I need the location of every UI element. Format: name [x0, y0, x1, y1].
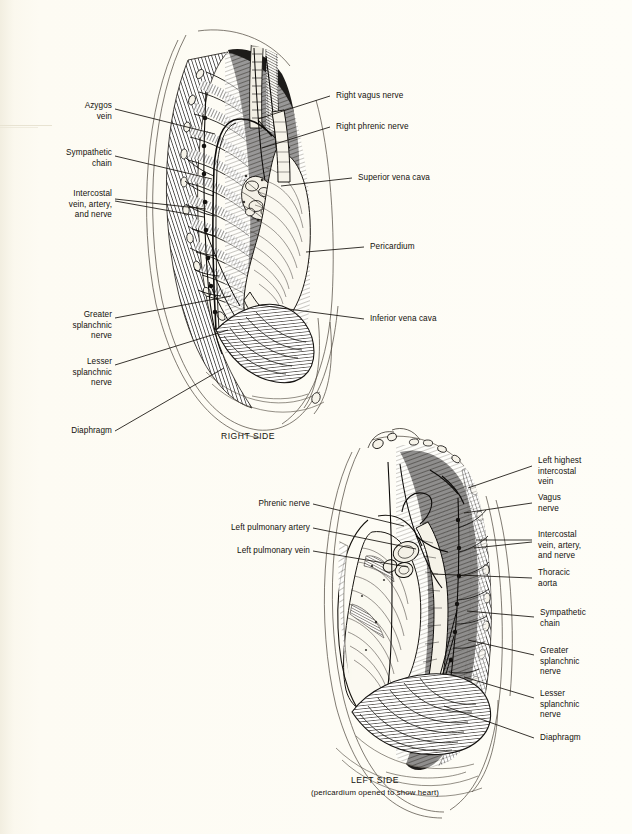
anatomical-illustration	[0, 0, 632, 834]
label-diaphragm-2: Diaphragm	[540, 733, 581, 744]
label-vagus-nerve: Vagus nerve	[538, 493, 561, 514]
caption-left-side: LEFT SIDE	[315, 775, 435, 786]
label-left-highest-intercostal-vein: Left highest intercostal vein	[538, 456, 581, 488]
label-inferior-vena-cava: Inferior vena cava	[370, 314, 437, 325]
label-diaphragm: Diaphragm	[52, 426, 112, 437]
label-phrenic-nerve: Phrenic nerve	[231, 499, 310, 510]
label-left-pulmonary-artery: Left pulmonary artery	[195, 523, 310, 534]
label-pericardium: Pericardium	[370, 242, 415, 253]
label-intercostal-vein-artery-nerve-2: Intercostal vein, artery, and nerve	[538, 530, 581, 562]
label-lesser-splanchnic-nerve-2: Lesser splanchnic nerve	[540, 689, 580, 721]
figure-right-side	[147, 30, 338, 438]
label-superior-vena-cava: Superior vena cava	[358, 173, 430, 184]
label-right-vagus-nerve: Right vagus nerve	[336, 91, 403, 102]
label-intercostal-vein-artery-nerve: Intercostal vein, artery, and nerve	[30, 189, 112, 221]
label-left-pulmonary-vein: Left pulmonary vein	[202, 546, 310, 557]
label-lesser-splanchnic-nerve: Lesser splanchnic nerve	[56, 357, 112, 389]
label-sympathetic-chain: Sympathetic chain	[30, 148, 112, 169]
label-greater-splanchnic-nerve: Greater splanchnic nerve	[56, 310, 112, 342]
figure-left-side	[324, 428, 512, 818]
label-right-phrenic-nerve: Right phrenic nerve	[336, 122, 409, 133]
label-sympathetic-chain-2: Sympathetic chain	[540, 608, 586, 629]
label-thoracic-aorta: Thoracic aorta	[538, 568, 570, 589]
caption-right-side: RIGHT SIDE	[198, 431, 298, 442]
label-azygos-vein: Azygos vein	[62, 101, 112, 122]
caption-left-side-sub: (pericardium opened to show heart)	[265, 787, 485, 798]
label-greater-splanchnic-nerve-2: Greater splanchnic nerve	[540, 646, 580, 678]
